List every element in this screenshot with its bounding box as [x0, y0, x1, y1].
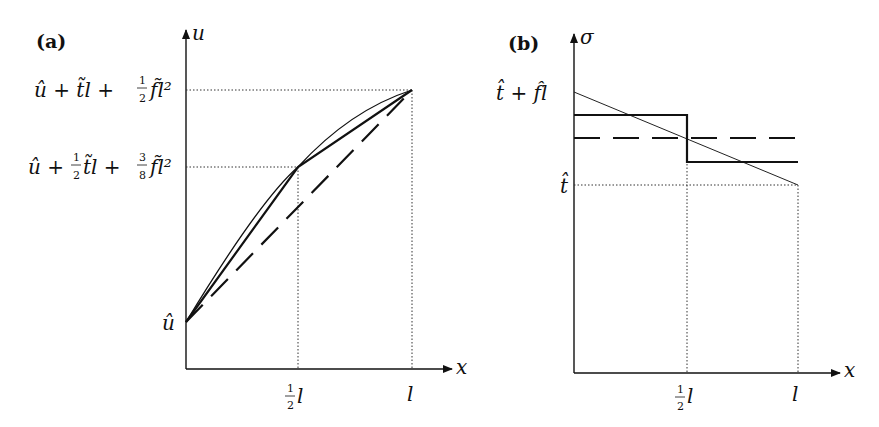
tick-u-hat: û	[162, 311, 175, 335]
svg-text:8: 8	[139, 169, 146, 182]
x-axis-label: x	[456, 355, 467, 379]
svg-text:û + t̃l +: û + t̃l +	[34, 76, 114, 102]
x-tick-half-l: 1 2 l	[285, 382, 303, 412]
svg-text:1: 1	[73, 151, 80, 164]
svg-text:2: 2	[287, 399, 294, 412]
single-element-dashed	[186, 90, 412, 322]
svg-text:f̃l²: f̃l²	[148, 155, 172, 179]
x-tick-half-l: 1 2 l	[675, 383, 693, 413]
tick-t-plus-fl: t̂ + f̂l	[496, 79, 547, 105]
svg-text:f̃l²: f̃l²	[148, 78, 172, 102]
svg-text:l: l	[687, 384, 693, 408]
svg-text:1: 1	[139, 74, 146, 87]
svg-text:1: 1	[287, 382, 294, 395]
svg-text:2: 2	[73, 169, 80, 182]
svg-text:2: 2	[677, 400, 684, 413]
figure-canvas: (a) u x û û + t̃l + 1 2 f̃l² û +	[0, 0, 879, 427]
panel-a: (a) u x û û + t̃l + 1 2 f̃l² û +	[28, 21, 467, 412]
u-axis-label: u	[192, 21, 205, 45]
guide-lines	[186, 90, 412, 369]
x-tick-l: l	[792, 382, 798, 406]
panel-b: (b) σ x t̂ + f̂l t̂ 1 2 l l	[496, 25, 855, 413]
panel-b-label: (b)	[508, 32, 539, 54]
sigma-axis-label: σ	[580, 25, 595, 49]
panel-a-label: (a)	[36, 30, 66, 52]
svg-text:2: 2	[139, 92, 146, 105]
tick-mid-label: û + 1 2 t̃l + 3 8 f̃l²	[28, 151, 172, 182]
svg-text:û +: û +	[28, 155, 64, 179]
svg-text:t̃l +: t̃l +	[83, 153, 121, 179]
x-tick-l: l	[407, 382, 413, 406]
svg-text:l: l	[297, 384, 303, 408]
tick-top-label: û + t̃l + 1 2 f̃l²	[34, 74, 172, 105]
svg-text:1: 1	[677, 383, 684, 396]
x-axis-label: x	[844, 358, 855, 382]
svg-text:3: 3	[139, 151, 146, 164]
tick-t-hat: t̂	[560, 172, 569, 198]
two-element-step	[574, 115, 798, 162]
